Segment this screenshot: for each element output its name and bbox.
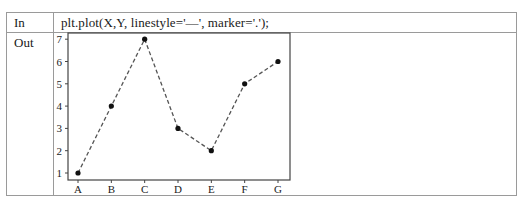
y-axis-ticks: 1234567 <box>57 33 69 179</box>
data-point <box>109 104 114 109</box>
y-tick-label: 1 <box>57 167 63 179</box>
data-line <box>78 39 278 173</box>
data-point <box>142 37 147 42</box>
y-tick-label: 3 <box>57 122 63 134</box>
data-point <box>242 81 247 86</box>
y-tick-label: 5 <box>57 78 63 90</box>
data-point <box>275 59 280 64</box>
x-axis-ticks: ABCDEFG <box>74 180 282 195</box>
y-tick-label: 7 <box>57 33 63 45</box>
data-point <box>75 170 80 175</box>
y-tick-label: 4 <box>57 100 63 112</box>
data-point <box>175 126 180 131</box>
x-tick-label: D <box>174 183 182 195</box>
x-tick-label: C <box>141 183 148 195</box>
plot-axes <box>68 33 290 180</box>
data-point <box>209 148 214 153</box>
y-tick-label: 2 <box>57 145 63 157</box>
line-chart: 1234567 ABCDEFG <box>0 0 525 202</box>
x-tick-label: B <box>108 183 115 195</box>
y-tick-label: 6 <box>57 56 63 68</box>
x-tick-label: F <box>242 183 248 195</box>
x-tick-label: A <box>74 183 82 195</box>
data-markers <box>75 37 280 176</box>
x-tick-label: G <box>274 183 282 195</box>
x-tick-label: E <box>208 183 215 195</box>
